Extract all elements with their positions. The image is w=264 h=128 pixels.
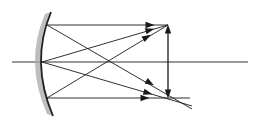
ray-arrowhead-2	[145, 28, 155, 34]
concave-mirror-diagram	[0, 0, 264, 128]
ray-arrowhead-4	[141, 95, 150, 101]
ray-arrowhead-5	[143, 89, 153, 95]
ray-line-6	[47, 25, 192, 109]
ray-arrowhead-1	[146, 22, 155, 28]
ray-arrowhead-3	[141, 35, 150, 42]
ray-arrowhead-6	[145, 78, 154, 85]
light-rays	[42, 22, 192, 109]
ray-line-5	[42, 62, 192, 106]
ray-diagram-canvas	[0, 0, 264, 128]
